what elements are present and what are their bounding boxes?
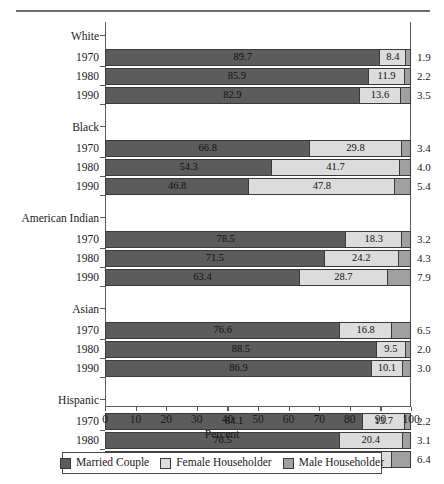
- x-axis-tick-label: 10: [130, 414, 142, 426]
- bar-segment-married-couple: 63.4: [105, 269, 299, 286]
- group-spacer: [0, 287, 444, 295]
- bar-segment-married-couple: 76.6: [105, 322, 339, 339]
- bar-segment-married-couple: 66.8: [105, 140, 309, 157]
- year-label: 1970: [0, 52, 99, 64]
- y-axis-tick: [100, 126, 105, 127]
- segment-value-label: 88.5: [232, 344, 250, 355]
- bar-segment-female-householder: 29.8: [309, 140, 400, 157]
- stacked-bar: 76.616.8: [105, 322, 411, 339]
- top-divider-rule: [16, 10, 430, 12]
- bar-segment-married-couple: 54.3: [105, 159, 271, 176]
- segment-value-label: 47.8: [313, 181, 331, 192]
- group-spacer: [0, 378, 444, 386]
- stacked-bar: 66.829.8: [105, 140, 411, 157]
- segment-value-label: 16.8: [356, 325, 374, 336]
- bar-row: 197089.78.41.9: [0, 48, 444, 67]
- bar-row: 199086.910.13.0: [0, 359, 444, 378]
- group-label: Hispanic: [0, 395, 99, 407]
- segment-value-label: 76.6: [214, 325, 232, 336]
- segment-value-label: 86.9: [229, 363, 247, 374]
- y-axis-tick: [100, 217, 105, 218]
- bar-segment-female-householder: 9.5: [376, 341, 405, 358]
- x-axis-tick-label: 50: [252, 414, 264, 426]
- bar-segment-married-couple: 82.9: [105, 87, 359, 104]
- segment-value-label: 46.8: [168, 181, 186, 192]
- bar-segment-female-householder: 10.1: [371, 360, 402, 377]
- male-householder-value-label: 3.4: [417, 143, 431, 154]
- x-axis-tick-mark: [227, 407, 228, 411]
- stacked-bar: 82.913.6: [105, 87, 411, 104]
- group-header-row: Asian: [0, 295, 444, 321]
- male-householder-value-label: 5.4: [417, 181, 431, 192]
- year-label: 1970: [0, 143, 99, 155]
- x-axis-tick-mark: [380, 407, 381, 411]
- male-householder-value-label: 7.9: [417, 272, 431, 283]
- segment-value-label: 8.4: [386, 52, 399, 63]
- male-householder-value-label: 4.3: [417, 253, 431, 264]
- male-householder-value-label: 2.0: [417, 344, 431, 355]
- bar-segment-married-couple: 78.5: [105, 231, 345, 248]
- bar-row: 199063.428.77.9: [0, 268, 444, 287]
- bar-segment-female-householder: 24.2: [324, 250, 398, 267]
- legend-item[interactable]: Female Householder: [160, 457, 272, 469]
- bar-row: 199046.847.85.4: [0, 177, 444, 196]
- male-householder-value-label: 3.5: [417, 90, 431, 101]
- segment-value-label: 28.7: [334, 272, 352, 283]
- x-axis-tick-mark: [350, 407, 351, 411]
- legend-label: Male Householder: [299, 457, 384, 469]
- stacked-bar: 78.518.3: [105, 231, 411, 248]
- male-householder-value-label: 2.2: [417, 71, 431, 82]
- bar-row: 197076.616.86.5: [0, 321, 444, 340]
- segment-value-label: 89.7: [234, 52, 252, 63]
- stacked-bar: 46.847.8: [105, 178, 411, 195]
- x-axis-tick-mark: [289, 407, 290, 411]
- bar-segment-male-householder: [394, 178, 411, 195]
- legend-label: Female Householder: [176, 457, 272, 469]
- bar-segment-female-householder: 18.3: [345, 231, 401, 248]
- male-householder-value-label: 1.9: [417, 52, 431, 63]
- segment-value-label: 78.5: [216, 234, 234, 245]
- x-axis-tick-mark: [197, 407, 198, 411]
- male-householder-value-label: 6.4: [417, 454, 431, 465]
- bar-segment-female-householder: 28.7: [299, 269, 387, 286]
- bar-segment-male-householder: [405, 49, 411, 66]
- stacked-bar: 85.911.9: [105, 68, 411, 85]
- group-spacer: [0, 105, 444, 113]
- bar-segment-female-householder: 16.8: [339, 322, 390, 339]
- year-label: 1980: [0, 162, 99, 174]
- stacked-bar: 88.59.5: [105, 341, 411, 358]
- year-label: 1970: [0, 325, 99, 337]
- bar-segment-male-householder: [387, 269, 411, 286]
- x-axis-tick-label: 60: [283, 414, 295, 426]
- group-header-row: Black: [0, 113, 444, 139]
- bar-segment-male-householder: [398, 250, 411, 267]
- group-header-row: American Indian: [0, 204, 444, 230]
- x-axis-tick-label: 0: [102, 414, 108, 426]
- x-axis-title: Percent: [0, 428, 444, 440]
- legend-item[interactable]: Male Householder: [283, 457, 384, 469]
- stacked-bar: 89.78.4: [105, 49, 411, 66]
- group-label: Black: [0, 122, 99, 134]
- bar-segment-male-householder: [404, 68, 411, 85]
- bar-rows-container: White197089.78.41.9198085.911.92.2199082…: [0, 22, 444, 407]
- male-householder-value-label: 3.0: [417, 363, 431, 374]
- year-label: 1980: [0, 253, 99, 265]
- x-axis-tick-mark: [411, 407, 412, 411]
- bar-row: 197078.518.33.2: [0, 230, 444, 249]
- bar-segment-married-couple: 85.9: [105, 68, 368, 85]
- bar-segment-female-householder: 8.4: [379, 49, 405, 66]
- segment-value-label: 82.9: [223, 90, 241, 101]
- legend-swatch-icon: [160, 458, 171, 469]
- x-axis-tick-label: 80: [344, 414, 356, 426]
- group-label: White: [0, 31, 99, 43]
- group-spacer: [0, 196, 444, 204]
- bar-segment-married-couple: 86.9: [105, 360, 371, 377]
- bar-row: 199082.913.63.5: [0, 86, 444, 105]
- segment-value-label: 13.6: [371, 90, 389, 101]
- bar-segment-female-householder: 47.8: [248, 178, 394, 195]
- segment-value-label: 10.1: [378, 363, 396, 374]
- x-axis-tick-mark: [166, 407, 167, 411]
- x-axis-tick-label: 30: [191, 414, 203, 426]
- group-label: Asian: [0, 304, 99, 316]
- legend-item[interactable]: Married Couple: [60, 457, 149, 469]
